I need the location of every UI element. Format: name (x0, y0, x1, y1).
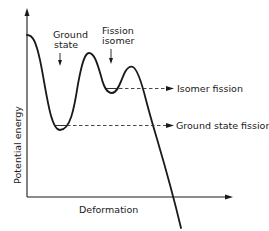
y-axis-label: Potential energy (12, 106, 23, 184)
ground-state-pointer-arrow-icon (58, 60, 62, 66)
fission-isomer-pointer-arrow-icon (109, 58, 113, 64)
ground-state-fission-arrow-icon (166, 123, 174, 128)
isomer-fission-label: Isomer fission (177, 83, 243, 94)
x-axis-arrow-icon (225, 195, 233, 200)
y-axis (25, 8, 30, 197)
fission-isomer-label-line2: isomer (102, 35, 135, 46)
x-axis (27, 195, 233, 200)
isomer-fission-arrow-icon (166, 86, 174, 91)
y-axis-arrow-icon (25, 8, 30, 16)
potential-energy-curve (27, 35, 181, 228)
ground-state-fission-label: Ground state fission (176, 120, 269, 131)
potential-energy-diagram: Ground state Fission isomer Isomer fissi… (0, 0, 269, 231)
x-axis-label: Deformation (79, 204, 138, 215)
ground-state-label-line2: state (54, 39, 78, 50)
